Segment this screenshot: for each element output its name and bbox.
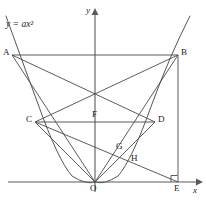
- segment-CE: [35, 122, 178, 182]
- x-axis-label: x: [193, 186, 197, 195]
- segment-OD: [95, 122, 155, 182]
- equation-text: y = ax²: [6, 19, 33, 29]
- point-label-G: G: [116, 142, 123, 151]
- point-label-H: H: [131, 154, 138, 163]
- geometry-figure: y = ax² A B C D F G H O E y x: [0, 0, 206, 205]
- equation-label: y = ax²: [6, 20, 33, 30]
- point-label-D: D: [158, 115, 165, 124]
- point-label-A: A: [3, 48, 10, 57]
- axes-group: [8, 8, 203, 192]
- parabola-curve: [6, 16, 190, 183]
- parabola-group: [6, 16, 190, 183]
- point-label-F: F: [92, 110, 97, 119]
- y-axis-arrow: [92, 8, 99, 15]
- geometry-canvas: [0, 0, 206, 205]
- x-axis-arrow: [196, 179, 203, 186]
- segment-OC: [35, 122, 95, 182]
- point-label-B: B: [181, 48, 187, 57]
- point-label-C: C: [26, 115, 32, 124]
- point-label-E: E: [174, 184, 180, 193]
- point-label-O: O: [90, 184, 97, 193]
- y-axis-label: y: [86, 6, 90, 15]
